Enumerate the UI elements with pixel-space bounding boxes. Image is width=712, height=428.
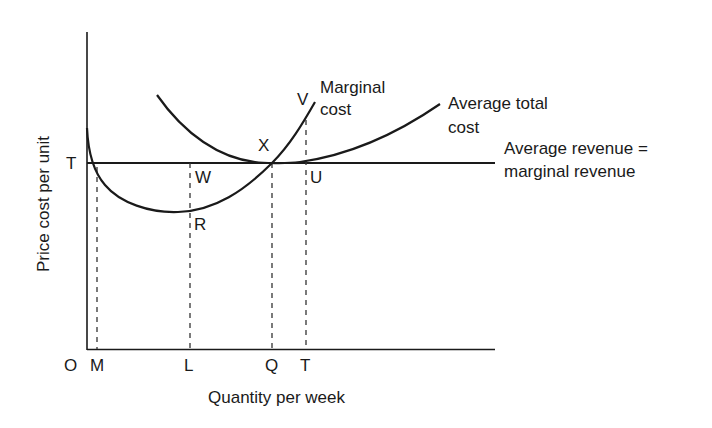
point-x: X: [258, 136, 269, 155]
point-v: V: [297, 90, 308, 109]
point-w: W: [195, 168, 211, 187]
point-u: U: [310, 168, 322, 187]
marginal-cost-curve: [87, 102, 315, 212]
ar-label-line1: Average revenue =: [504, 139, 648, 158]
origin-label: O: [64, 356, 77, 375]
atc-label-line1: Average total: [448, 94, 548, 113]
y-tick-t: T: [66, 154, 76, 173]
y-axis-label: Price cost per unit: [34, 136, 54, 272]
mc-label-line2: cost: [320, 100, 351, 119]
x-axis-label: Quantity per week: [208, 388, 345, 407]
x-tick-t: T: [300, 356, 310, 375]
x-tick-m: M: [90, 356, 104, 375]
mc-label-line1: Marginal: [320, 78, 385, 97]
x-tick-l: L: [184, 356, 193, 375]
dashed-guides: [97, 120, 306, 349]
atc-label-line2: cost: [448, 118, 479, 137]
ar-label-line2: marginal revenue: [504, 162, 635, 181]
x-tick-q: Q: [265, 356, 278, 375]
cost-revenue-diagram: [0, 0, 712, 428]
point-r: R: [194, 215, 206, 234]
